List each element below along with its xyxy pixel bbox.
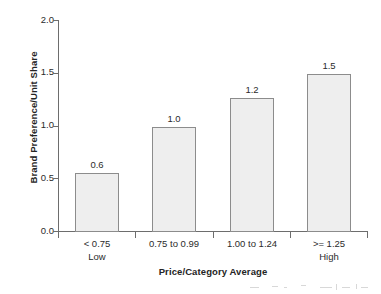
y-tick-label-0-5: 0.5 [26,173,54,183]
x-category-label-1-main: 0.75 to 0.99 [149,238,199,249]
y-tick-label-2-0: 2.0 [26,15,54,25]
bar-value-label-2: 1.2 [222,84,282,95]
bar-category-1 [152,127,196,232]
y-axis-line [58,20,59,232]
bar-category-0 [75,173,119,232]
scan-artifact-marks [246,281,376,291]
x-category-label-2-main: 1.00 to 1.24 [227,238,277,249]
x-axis-title: Price/Category Average [58,266,368,277]
bar-value-label-3: 1.5 [299,60,359,71]
y-tick-label-0-0: 0.0 [26,226,54,236]
x-category-sublabel-3: High [289,251,369,264]
y-tick-label-1-0: 1.0 [26,120,54,130]
x-category-label-3: >= 1.25 High [289,238,369,263]
x-category-label-2: 1.00 to 1.24 [212,238,292,251]
y-axis-title: Brand Preference/Unit Share [28,13,39,223]
bar-value-label-1: 1.0 [144,113,204,124]
bar-category-2 [230,98,274,232]
x-category-label-0-main: < 0.75 [84,238,111,249]
x-category-sublabel-0: Low [57,251,137,264]
x-category-label-0: < 0.75 Low [57,238,137,263]
bar-category-3 [307,74,351,232]
x-category-label-1: 0.75 to 0.99 [134,238,214,251]
y-tick-label-1-5: 1.5 [26,67,54,77]
bar-value-label-0: 0.6 [67,159,127,170]
bar-chart-figure: Brand Preference/Unit Share 2.0 1.5 1.0 … [0,0,381,294]
x-category-label-3-main: >= 1.25 [313,238,345,249]
